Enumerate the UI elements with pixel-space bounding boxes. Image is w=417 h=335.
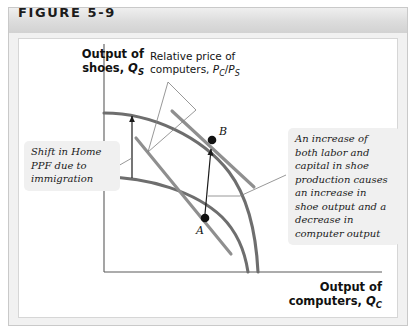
x-axis-label-line2: computers, — [289, 294, 366, 308]
shift-note-box: Shift in Home PPF due to immigration — [24, 141, 120, 191]
point-a-label: A — [196, 224, 204, 237]
figure-container: FIGURE 5-9 — [0, 0, 417, 335]
y-axis-label: Output of shoes, QS — [60, 47, 144, 79]
y-axis-label-line2: shoes, — [82, 61, 128, 75]
relative-price-line2: computers, — [150, 63, 213, 75]
x-axis-variable: Q — [366, 294, 376, 308]
y-axis-subscript: S — [138, 67, 144, 77]
relative-price-denominator-sub: S — [235, 69, 240, 78]
increase-note-box: An increase of both labor and capital in… — [288, 128, 400, 245]
x-axis-label: Output of computers, QC — [258, 280, 382, 312]
figure-title: FIGURE 5-9 — [18, 5, 116, 20]
y-axis-variable: Q — [128, 61, 138, 75]
x-axis-subscript: C — [376, 300, 382, 310]
relative-price-line1: Relative price of — [150, 50, 235, 62]
point-b-label: B — [219, 125, 227, 138]
relative-price-label: Relative price of computers, PC/PS — [150, 50, 240, 80]
y-axis-label-line1: Output of — [82, 47, 144, 61]
x-axis-label-line1: Output of — [320, 280, 382, 294]
